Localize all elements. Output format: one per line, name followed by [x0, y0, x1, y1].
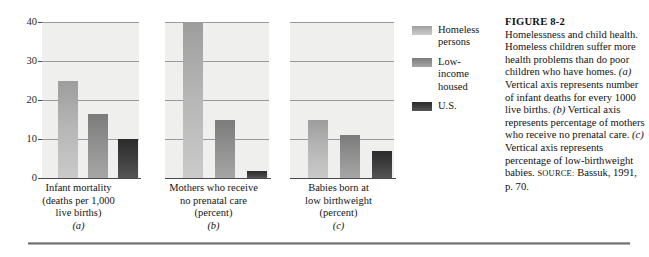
caption-source-label: SOURCE: — [537, 169, 574, 178]
bar-c-us — [372, 151, 392, 178]
legend-label-homeless-line1: Homeless — [438, 24, 479, 35]
panel-caption-a-line1: Infant mortality — [10, 182, 147, 195]
legend-label-homeless-line2: persons — [438, 36, 470, 47]
bar-a-homeless — [58, 81, 78, 179]
figure-caption-body: Homelessness and child health. Homeless … — [505, 29, 645, 192]
panel-caption-c-line3: (percent) — [270, 207, 407, 220]
tick-label-10: 10 — [27, 134, 38, 144]
legend-swatch-homeless-icon — [412, 26, 432, 35]
plot-area-c — [290, 22, 394, 178]
legend-label-low-income-line1: Low-income — [438, 56, 469, 79]
caption-seg-1: (a) — [619, 66, 631, 77]
figure-caption: FIGURE 8-2 Homelessness and child health… — [505, 16, 645, 193]
panel-letter-a: (a) — [10, 220, 147, 233]
panel-caption-c-line1: Babies born at — [270, 182, 407, 195]
panel-caption-a-line3: live births) — [10, 207, 147, 220]
chart-panel-a: 40 30 20 10 0 — [16, 8, 141, 240]
legend-label-low-income-line2: housed — [438, 81, 468, 92]
tick-label-20: 20 — [27, 95, 38, 105]
bar-c-homeless — [308, 120, 328, 179]
panel-letter-b: (b) — [145, 220, 282, 233]
bar-c-low-income — [340, 135, 360, 178]
chart-legend: Homelesspersons Low-incomehoused U.S. — [412, 24, 490, 131]
figure-label: FIGURE 8-2 — [505, 16, 645, 29]
bar-group-b — [165, 22, 269, 178]
legend-item-homeless: Homelesspersons — [412, 24, 490, 49]
legend-item-us: U.S. — [412, 100, 490, 124]
panel-caption-a: Infant mortality (deaths per 1,000 live … — [10, 182, 147, 232]
plot-area-a: 40 30 20 10 0 — [42, 22, 139, 178]
legend-label-us: U.S. — [438, 100, 490, 112]
bar-group-c — [290, 22, 394, 178]
plot-area-b — [165, 22, 269, 178]
bar-a-low-income — [88, 114, 108, 178]
legend-label-homeless: Homelesspersons — [438, 24, 490, 49]
bar-b-us — [247, 171, 267, 178]
legend-item-low-income: Low-incomehoused — [412, 56, 490, 93]
legend-swatch-low-income-icon — [412, 58, 432, 67]
chart-panel-b: Mothers who receive no prenatal care (pe… — [151, 8, 276, 240]
legend-label-low-income: Low-incomehoused — [438, 56, 490, 93]
tick-label-30: 30 — [27, 56, 38, 66]
caption-seg-5: (c) — [632, 129, 644, 140]
bar-group-a — [42, 22, 139, 178]
bar-a-us — [118, 139, 138, 178]
x-axis-line-b — [165, 178, 271, 179]
page-divider-rule — [28, 242, 630, 245]
caption-seg-3: (b) — [553, 104, 565, 115]
bar-b-homeless — [183, 22, 203, 178]
panel-caption-b-line1: Mothers who receive — [145, 182, 282, 195]
panel-caption-c-line2: low birthweight — [270, 195, 407, 208]
panel-caption-b: Mothers who receive no prenatal care (pe… — [145, 182, 282, 232]
legend-swatch-us-icon — [412, 102, 432, 111]
x-axis-line-c — [290, 178, 396, 179]
x-axis-line-a — [42, 178, 141, 179]
panel-letter-c: (c) — [270, 220, 407, 233]
charts-area: 40 30 20 10 0 — [0, 8, 405, 240]
chart-panel-c: Babies born at low birthweight (percent)… — [276, 8, 401, 240]
panel-caption-c: Babies born at low birthweight (percent)… — [270, 182, 407, 232]
panel-caption-b-line2: no prenatal care — [145, 195, 282, 208]
figure-8-2: 40 30 20 10 0 — [0, 0, 649, 257]
panel-caption-b-line3: (percent) — [145, 207, 282, 220]
tick-label-40: 40 — [27, 17, 38, 27]
bar-b-low-income — [215, 120, 235, 178]
panel-caption-a-line2: (deaths per 1,000 — [10, 195, 147, 208]
